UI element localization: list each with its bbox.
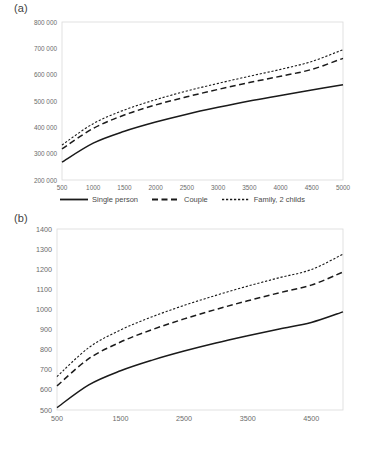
x-axis-tick-label: 2000: [149, 184, 164, 191]
x-axis-tick-label: 1000: [86, 184, 101, 191]
y-axis-tick-label: 400 000: [34, 124, 58, 131]
y-axis-tick-label: 1000: [36, 305, 52, 314]
chart-a-legend: Single personCoupleFamily, 2 childs: [0, 196, 365, 204]
legend-item[interactable]: Couple: [152, 196, 208, 204]
y-axis-tick-label: 1300: [36, 245, 52, 254]
chart-a-plot: 200 000300 000400 000500 000600 000700 0…: [0, 0, 365, 196]
y-axis-tick-label: 1100: [37, 285, 52, 294]
plot-area-border: [62, 22, 343, 180]
series-line: [57, 312, 343, 408]
series-line: [62, 58, 343, 149]
figure-b: (b) 500600700800900100011001200130014005…: [0, 208, 365, 464]
series-line: [57, 272, 343, 386]
y-axis-tick-label: 1200: [36, 265, 52, 274]
y-axis-tick-label: 700 000: [34, 45, 58, 52]
x-axis-tick-label: 1500: [117, 184, 132, 191]
x-axis-tick-label: 4000: [273, 184, 288, 191]
legend-label: Family, 2 childs: [254, 196, 305, 204]
x-axis-tick-label: 4500: [303, 414, 319, 423]
x-axis-tick-label: 4500: [305, 184, 320, 191]
x-axis-tick-label: 500: [57, 184, 68, 191]
x-axis-tick-label: 1500: [113, 414, 129, 423]
figure-a: (a) 200 000300 000400 000500 000600 0007…: [0, 0, 365, 218]
y-axis-tick-label: 300 000: [34, 150, 58, 157]
legend-key-dashed: [152, 196, 180, 203]
series-line: [57, 254, 343, 376]
y-axis-tick-label: 1400: [36, 225, 52, 234]
series-line: [62, 50, 343, 145]
x-axis-tick-label: 3500: [242, 184, 257, 191]
x-axis-tick-label: 3000: [211, 184, 226, 191]
y-axis-tick-label: 900: [40, 325, 52, 334]
legend-label: Couple: [184, 196, 208, 204]
legend-key-solid: [60, 196, 88, 203]
x-axis-tick-label: 500: [51, 414, 63, 423]
y-axis-tick-label: 600 000: [34, 71, 58, 78]
x-axis-tick-label: 2500: [180, 184, 195, 191]
x-axis-tick-label: 5000: [336, 184, 351, 191]
legend-label: Single person: [92, 196, 138, 204]
x-axis-tick-label: 2500: [176, 414, 192, 423]
y-axis-tick-label: 800: [40, 345, 52, 354]
legend-item[interactable]: Single person: [60, 196, 138, 204]
y-axis-tick-label: 800 000: [34, 19, 58, 26]
x-axis-tick-label: 3500: [240, 414, 256, 423]
y-axis-tick-label: 500 000: [34, 98, 58, 105]
legend-item[interactable]: Family, 2 childs: [222, 196, 305, 204]
plot-area-border: [57, 229, 343, 410]
legend-key-dotted: [222, 196, 250, 203]
y-axis-tick-label: 700: [40, 365, 52, 374]
chart-b-plot: 5006007008009001000110012001300140050015…: [0, 208, 365, 438]
y-axis-tick-label: 600: [40, 385, 52, 394]
y-axis-tick-label: 200 000: [34, 177, 58, 184]
